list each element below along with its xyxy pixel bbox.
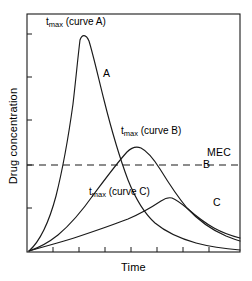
tmax-curve-b-annotation: tmax (curve B) (121, 125, 181, 136)
curve-a-path (29, 36, 240, 251)
x-axis-ticks (53, 247, 209, 252)
tmax-curve-c-annotation: tmax (curve C) (89, 186, 150, 197)
curve-c-path (29, 198, 240, 251)
tmax-a-subscript: max (49, 20, 63, 29)
tmax-a-suffix: (curve A) (63, 16, 106, 27)
y-axis-label: Drug concentration (7, 76, 19, 196)
curve-c-label: C (213, 196, 221, 208)
tmax-c-suffix: (curve C) (106, 186, 150, 197)
mec-label: MEC (207, 146, 231, 158)
curve-a-label: A (103, 67, 110, 79)
y-axis-ticks (27, 34, 32, 208)
figure-container: Drug concentration Time tmax (curve A) t… (0, 0, 252, 281)
tmax-b-suffix: (curve B) (138, 125, 181, 136)
curve-c (29, 198, 240, 251)
tmax-curve-a-annotation: tmax (curve A) (46, 16, 106, 27)
x-axis-label: Time (27, 261, 240, 273)
curve-a (29, 36, 240, 251)
curve-b-label: B (203, 158, 210, 170)
pharmacokinetic-chart (0, 0, 252, 281)
tmax-c-subscript: max (92, 190, 106, 199)
tmax-b-subscript: max (124, 129, 138, 138)
